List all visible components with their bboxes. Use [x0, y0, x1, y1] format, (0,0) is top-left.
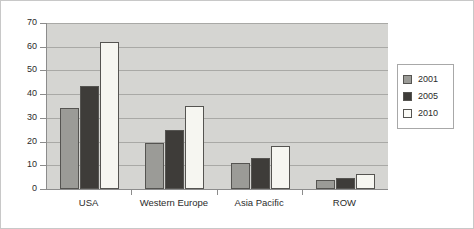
bar-usa-2010 [100, 42, 119, 189]
y-axis-tick-label: 40 [7, 89, 37, 98]
bar-group [303, 23, 388, 189]
bar-western-europe-2001 [145, 143, 164, 189]
y-axis-labels: 010203040506070 [1, 1, 37, 229]
legend-item-2010: 2010 [403, 105, 448, 122]
legend-item-2001: 2001 [403, 71, 448, 88]
bar-asia-pacific-2010 [271, 146, 290, 189]
bar-asia-pacific-2005 [251, 158, 270, 189]
bar-usa-2005 [80, 86, 99, 189]
y-tick-10 [40, 165, 46, 166]
y-axis-tick-label: 70 [7, 18, 37, 27]
legend-label: 2005 [418, 92, 438, 101]
bar-row-2010 [356, 174, 375, 189]
y-tick-70 [40, 23, 46, 24]
y-tick-30 [40, 118, 46, 119]
legend-label: 2010 [418, 109, 438, 118]
x-tick [131, 190, 132, 195]
y-axis-tick-label: 0 [7, 184, 37, 193]
y-tick-40 [40, 94, 46, 95]
plot-area [46, 23, 388, 190]
y-axis-tick-label: 10 [7, 160, 37, 169]
bar-group [47, 23, 132, 189]
bar-usa-2001 [60, 108, 79, 189]
bar-group [132, 23, 217, 189]
x-axis-label-usa: USA [46, 197, 131, 208]
y-tick-50 [40, 70, 46, 71]
bar-chart-figure: 010203040506070 200120052010 USAWestern … [0, 0, 474, 229]
x-tick [302, 190, 303, 195]
legend-swatch-icon-2010 [403, 109, 412, 118]
x-axis-label-row: ROW [302, 197, 387, 208]
y-axis-tick-label: 20 [7, 137, 37, 146]
chart-legend: 200120052010 [397, 64, 454, 129]
legend-label: 2001 [418, 75, 438, 84]
bar-western-europe-2010 [185, 106, 204, 189]
y-axis-tick-label: 60 [7, 42, 37, 51]
y-axis-tick-label: 30 [7, 113, 37, 122]
bar-group [218, 23, 303, 189]
y-axis-tick-label: 50 [7, 65, 37, 74]
y-tick-20 [40, 142, 46, 143]
y-tick-0 [40, 189, 46, 190]
x-axis-label-asia-pacific: Asia Pacific [217, 197, 302, 208]
bar-row-2005 [336, 178, 355, 189]
x-axis-label-western-europe: Western Europe [131, 197, 216, 208]
bar-western-europe-2005 [165, 130, 184, 189]
bar-asia-pacific-2001 [231, 163, 250, 189]
x-tick [217, 190, 218, 195]
y-tick-60 [40, 47, 46, 48]
legend-swatch-icon-2005 [403, 92, 412, 101]
legend-swatch-icon-2001 [403, 75, 412, 84]
bar-row-2001 [316, 180, 335, 189]
legend-item-2005: 2005 [403, 88, 448, 105]
